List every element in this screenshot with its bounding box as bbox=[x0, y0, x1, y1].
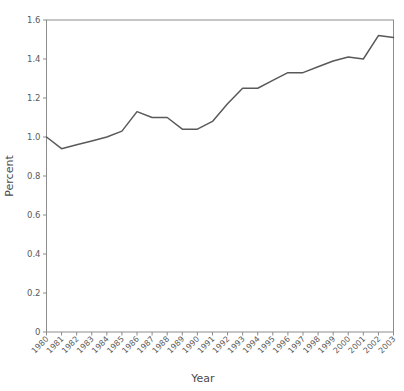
data-series-line bbox=[47, 36, 394, 149]
chart-figure: 00.20.40.60.81.01.21.41.6198019811982198… bbox=[0, 0, 404, 391]
y-axis-tick-label: 0.6 bbox=[27, 210, 41, 220]
y-axis-tick-label: 0.8 bbox=[27, 171, 41, 181]
y-axis-title: Percent bbox=[3, 155, 16, 197]
x-axis-title: Year bbox=[190, 372, 215, 385]
plot-area-frame bbox=[47, 20, 394, 332]
line-chart-canvas: 00.20.40.60.81.01.21.41.6198019811982198… bbox=[0, 0, 404, 391]
y-axis-tick-label: 0.4 bbox=[27, 249, 41, 259]
y-axis-tick-label: 1.0 bbox=[27, 132, 41, 142]
y-axis-tick-label: 1.2 bbox=[27, 93, 41, 103]
x-axis-tick-label: 2003 bbox=[377, 335, 398, 356]
y-axis-tick-label: 0 bbox=[35, 327, 40, 337]
y-axis-tick-label: 1.4 bbox=[27, 54, 41, 64]
y-axis-tick-label: 1.6 bbox=[27, 15, 41, 25]
y-axis-tick-label: 0.2 bbox=[27, 288, 41, 298]
